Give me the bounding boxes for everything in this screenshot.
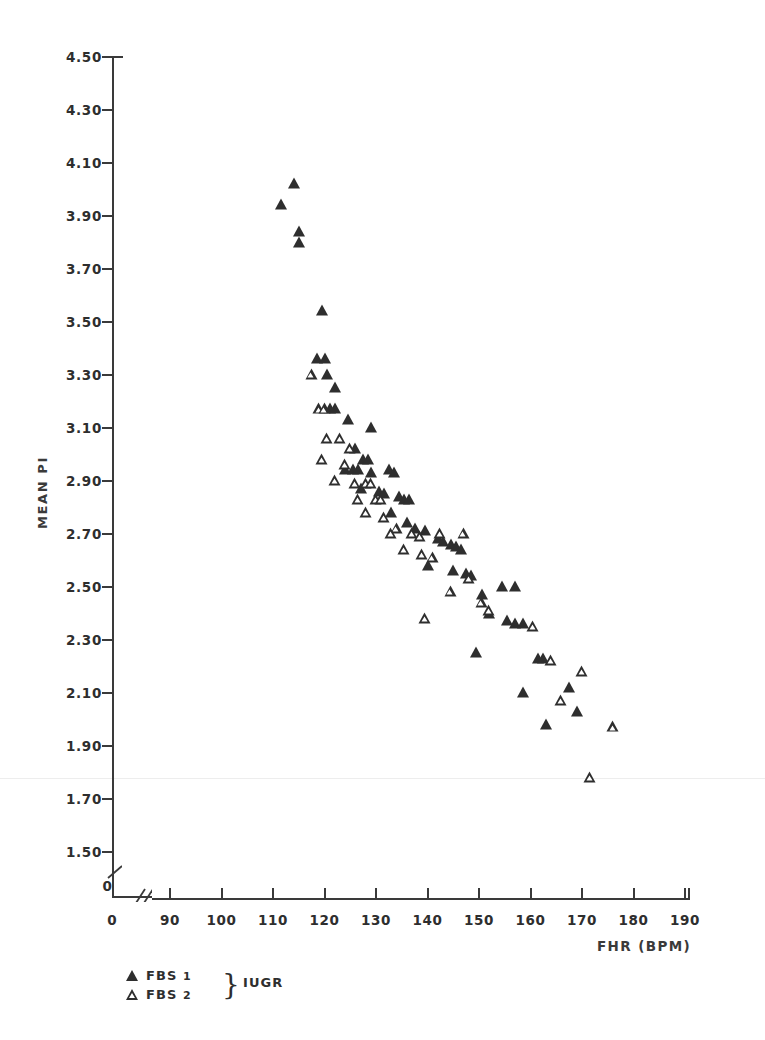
y-tick xyxy=(102,427,113,429)
open-triangle-icon xyxy=(126,989,139,1000)
x-tick-label: 180 xyxy=(611,912,657,928)
data-point-fbs-1 xyxy=(540,718,552,729)
data-point-fbs-1 xyxy=(288,178,300,189)
x-tick-label: 190 xyxy=(662,912,708,928)
y-tick-label: 4.50 xyxy=(40,49,102,65)
data-point-fbs-2 xyxy=(434,528,447,539)
data-point-fbs-2 xyxy=(305,369,318,380)
data-point-fbs-2 xyxy=(321,432,334,443)
data-point-fbs-1 xyxy=(563,681,575,692)
x-tick xyxy=(581,888,583,899)
data-point-fbs-2 xyxy=(457,528,470,539)
y-tick xyxy=(102,533,113,535)
data-point-fbs-1 xyxy=(352,464,364,475)
data-point-fbs-1 xyxy=(316,305,328,316)
data-point-fbs-1 xyxy=(509,581,521,592)
data-point-fbs-2 xyxy=(426,551,439,562)
data-point-fbs-2 xyxy=(413,530,426,541)
y-tick-label: 1.70 xyxy=(40,791,102,807)
data-point-fbs-1 xyxy=(470,647,482,658)
x-tick xyxy=(272,888,274,899)
x-tick-label: 170 xyxy=(559,912,605,928)
y-tick-label: 2.30 xyxy=(40,632,102,648)
data-point-fbs-1 xyxy=(321,369,333,380)
data-point-fbs-1 xyxy=(403,493,415,504)
data-point-fbs-1 xyxy=(342,414,354,425)
x-tick-label: 160 xyxy=(508,912,554,928)
data-point-fbs-2 xyxy=(364,477,377,488)
x-axis-title: FHR (BPM) xyxy=(597,938,691,954)
y-tick-label: 2.50 xyxy=(40,579,102,595)
y-tick xyxy=(102,321,113,323)
data-point-fbs-1 xyxy=(496,581,508,592)
data-point-fbs-1 xyxy=(365,422,377,433)
x-tick xyxy=(375,888,377,899)
x-tick xyxy=(221,888,223,899)
data-point-fbs-2 xyxy=(398,544,411,555)
y-tick xyxy=(102,109,113,111)
data-point-fbs-2 xyxy=(527,620,540,631)
y-tick-label: 3.10 xyxy=(40,420,102,436)
data-point-fbs-2 xyxy=(555,695,568,706)
data-point-fbs-1 xyxy=(293,226,305,237)
y-tick xyxy=(102,586,113,588)
y-tick xyxy=(102,268,113,270)
x-tick-label: 130 xyxy=(353,912,399,928)
x-tick xyxy=(324,888,326,899)
data-point-fbs-1 xyxy=(447,565,459,576)
y-axis-title: MEAN PI xyxy=(35,438,50,548)
data-point-fbs-1 xyxy=(388,467,400,478)
data-point-fbs-2 xyxy=(333,432,346,443)
data-point-fbs-1 xyxy=(293,236,305,247)
data-point-fbs-1 xyxy=(365,467,377,478)
data-point-fbs-1 xyxy=(275,199,287,210)
data-point-fbs-2 xyxy=(606,721,619,732)
legend-brace: } xyxy=(222,965,240,1005)
data-point-fbs-2 xyxy=(576,665,589,676)
legend-item-fbs-1[interactable]: FBS 1 xyxy=(126,966,191,985)
data-point-fbs-2 xyxy=(351,493,364,504)
x-axis-line xyxy=(152,898,690,900)
legend-item-fbs-2[interactable]: FBS 2 xyxy=(126,985,191,1004)
y-axis-top-cap xyxy=(112,56,123,58)
y-tick xyxy=(102,745,113,747)
x-tick-label: 110 xyxy=(250,912,296,928)
y-tick-label: 3.90 xyxy=(40,208,102,224)
y-tick xyxy=(102,851,113,853)
data-point-fbs-1 xyxy=(517,687,529,698)
data-point-fbs-2 xyxy=(483,604,496,615)
y-axis-line xyxy=(112,57,114,876)
scatter-plot-figure: 1.501.701.902.102.302.502.702.903.103.30… xyxy=(0,0,765,1040)
data-point-fbs-2 xyxy=(359,506,372,517)
y-tick xyxy=(102,162,113,164)
data-point-fbs-2 xyxy=(328,475,341,486)
legend: FBS 1 FBS 2 } IUGR xyxy=(126,966,426,1012)
y-tick xyxy=(102,215,113,217)
data-point-fbs-2 xyxy=(444,586,457,597)
y-tick xyxy=(102,798,113,800)
data-point-fbs-2 xyxy=(583,771,596,782)
x-axis-break-icon xyxy=(130,886,152,902)
x-tick-label: 120 xyxy=(302,912,348,928)
y-tick-label: 2.10 xyxy=(40,685,102,701)
data-point-fbs-2 xyxy=(344,443,357,454)
x-tick xyxy=(684,888,686,899)
x-axis-zero-label: 0 xyxy=(89,912,135,928)
data-point-fbs-2 xyxy=(545,655,558,666)
y-axis-zero-label: 0 xyxy=(50,878,112,894)
x-tick-label: 90 xyxy=(147,912,193,928)
x-tick-label: 100 xyxy=(199,912,245,928)
data-point-fbs-1 xyxy=(455,544,467,555)
legend-item-fbs-2-label: FBS 2 xyxy=(146,987,191,1002)
x-tick xyxy=(633,888,635,899)
y-tick-label: 3.50 xyxy=(40,314,102,330)
data-point-fbs-2 xyxy=(385,528,398,539)
legend-item-fbs-1-label: FBS 1 xyxy=(146,968,191,983)
x-tick-label: 150 xyxy=(456,912,502,928)
data-point-fbs-2 xyxy=(339,459,352,470)
filled-triangle-icon xyxy=(126,970,139,981)
y-tick xyxy=(102,692,113,694)
x-tick xyxy=(427,888,429,899)
y-tick-label: 4.30 xyxy=(40,102,102,118)
data-point-fbs-1 xyxy=(571,705,583,716)
